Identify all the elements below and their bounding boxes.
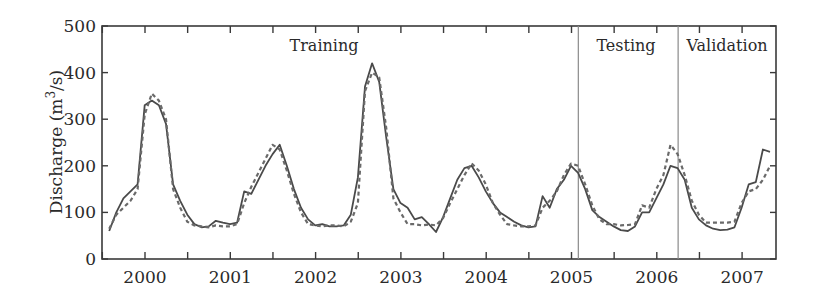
period-label-training: Training — [290, 36, 359, 55]
svg-text:Discharge (m3/s): Discharge (m3/s) — [44, 70, 66, 214]
y-tick-label: 300 — [64, 109, 96, 129]
x-tick-label: 2005 — [550, 267, 593, 287]
x-axis: 20002001200220032004200520062007 — [102, 26, 763, 287]
y-tick-label: 100 — [64, 202, 96, 222]
x-tick-label: 2001 — [209, 267, 252, 287]
x-tick-label: 2000 — [123, 267, 166, 287]
y-tick-label: 500 — [64, 16, 96, 36]
period-label-testing: Testing — [596, 36, 655, 55]
y-tick-label: 0 — [85, 249, 96, 269]
x-tick-label: 2007 — [720, 267, 763, 287]
x-tick-label: 2004 — [465, 267, 508, 287]
series-predicted-line — [109, 73, 770, 229]
y-axis: 0100200300400500 — [64, 16, 776, 269]
period-label-validation: Validation — [685, 36, 767, 55]
y-tick-label: 200 — [64, 156, 96, 176]
x-tick-label: 2006 — [635, 267, 678, 287]
discharge-chart: Discharge (m3/s) 0100200300400500 200020… — [0, 0, 813, 303]
y-axis-title: Discharge (m3/s) — [44, 70, 66, 214]
x-tick-label: 2003 — [379, 267, 422, 287]
y-tick-label: 400 — [64, 63, 96, 83]
series-lines — [109, 63, 770, 232]
x-tick-label: 2002 — [294, 267, 337, 287]
period-labels: TrainingTestingValidation — [290, 36, 768, 55]
